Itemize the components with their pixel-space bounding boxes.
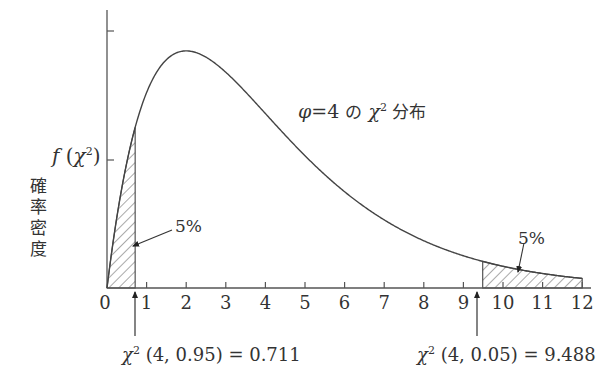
x-tick-label: 9 <box>458 292 469 313</box>
x-tick-label: 12 <box>571 292 594 313</box>
y-label-char: 密 <box>30 218 50 239</box>
right-tail-percent-label: 5% <box>518 228 545 248</box>
x-tick-label: 8 <box>418 292 429 313</box>
x-tick-label: 3 <box>220 292 231 313</box>
y-label-char: 確 <box>30 176 50 197</box>
right-critical-value-label: χ2 (4, 0.05) = 9.488 <box>417 344 596 365</box>
x-tick-label: 7 <box>378 292 389 313</box>
x-tick-label: 4 <box>260 292 271 313</box>
chi-square-chart <box>0 0 613 383</box>
x-tick-label: 2 <box>180 292 191 313</box>
left-critical-value-label: χ2 (4, 0.95) = 0.711 <box>122 344 301 365</box>
x-tick-label: 10 <box>492 292 515 313</box>
pdf-curve <box>107 51 582 288</box>
x-tick-label: 1 <box>141 292 152 313</box>
left-pct-pointer <box>133 230 172 246</box>
left-tail-percent-label: 5% <box>175 216 202 236</box>
x-tick-label: 6 <box>339 292 350 313</box>
x-tick-label: 11 <box>531 292 554 313</box>
y-axis-function-label: f (χ2) <box>52 144 101 168</box>
y-label-char: 率 <box>30 197 50 218</box>
x-tick-label: 0 <box>99 292 110 313</box>
distribution-title: φ=4 の χ2 分布 <box>298 98 426 123</box>
y-label-char: 度 <box>30 239 50 260</box>
x-tick-label: 5 <box>299 292 310 313</box>
y-axis-label-cjk: 確 率 密 度 <box>30 176 50 260</box>
left-tail-shaded-area <box>107 127 135 288</box>
